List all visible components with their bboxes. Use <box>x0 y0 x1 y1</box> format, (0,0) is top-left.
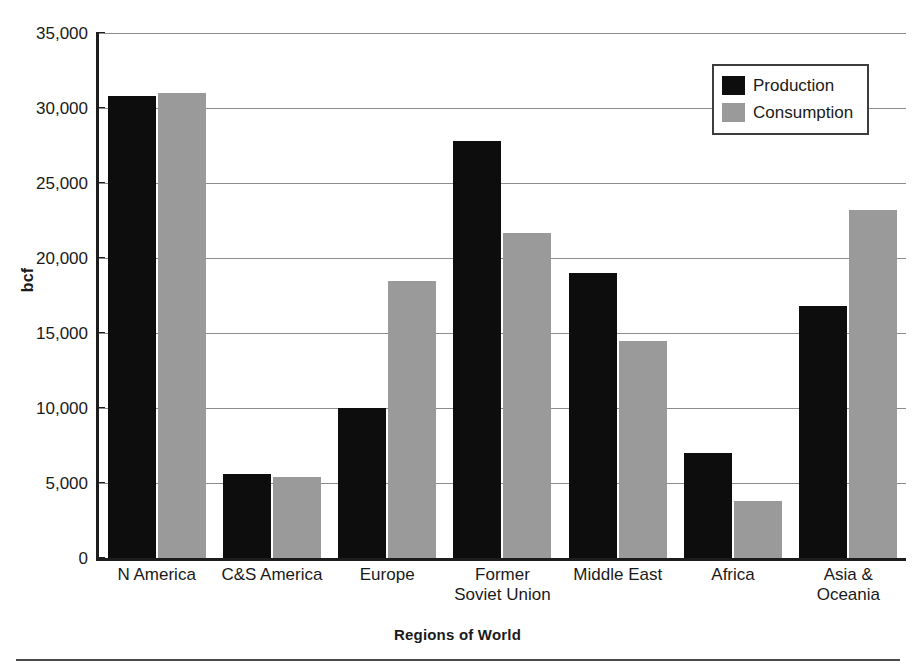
bar-production <box>338 408 386 558</box>
y-axis-tick-label: 30,000 <box>36 100 88 117</box>
bar-consumption <box>388 281 436 559</box>
x-axis-tick-label: Africa <box>675 565 790 585</box>
y-axis-tick-label: 15,000 <box>36 325 88 342</box>
bar-consumption <box>273 477 321 558</box>
bar-production <box>684 453 732 558</box>
bar-consumption <box>503 233 551 559</box>
bar-consumption <box>158 93 206 558</box>
footer-divider <box>16 659 900 661</box>
y-axis-tick-label: 35,000 <box>36 25 88 42</box>
x-axis-tick-label: Middle East <box>560 565 675 585</box>
bar-group <box>330 33 445 558</box>
bar-chart-figure: bcf 05,00010,00015,00020,00025,00030,000… <box>0 0 915 670</box>
legend-label-production: Production <box>753 77 834 94</box>
bar-consumption <box>734 501 782 558</box>
bar-group <box>560 33 675 558</box>
chart-legend: Production Consumption <box>712 64 869 135</box>
x-axis-tick-label: Asia & Oceania <box>791 565 906 604</box>
legend-swatch-production-icon <box>722 76 745 95</box>
bar-consumption <box>619 341 667 559</box>
y-axis-tick-labels: 05,00010,00015,00020,00025,00030,00035,0… <box>30 0 88 570</box>
bar-production <box>223 474 271 558</box>
y-axis-tick-label: 25,000 <box>36 175 88 192</box>
x-axis-tick-label: Europe <box>330 565 445 585</box>
x-axis-tick-label: Former Soviet Union <box>445 565 560 604</box>
y-axis-tick-label: 0 <box>79 550 88 567</box>
bar-group <box>214 33 329 558</box>
legend-label-consumption: Consumption <box>753 104 853 121</box>
y-axis-tick-label: 20,000 <box>36 250 88 267</box>
legend-item-consumption: Consumption <box>722 99 859 126</box>
bar-group <box>445 33 560 558</box>
y-axis-tick-label: 5,000 <box>45 475 88 492</box>
bar-production <box>453 141 501 558</box>
x-axis-tick-label: N America <box>99 565 214 585</box>
legend-swatch-consumption-icon <box>722 103 745 122</box>
x-axis-title: Regions of World <box>0 626 915 643</box>
x-axis-tick-labels: N AmericaC&S AmericaEuropeFormer Soviet … <box>99 565 906 604</box>
bar-production <box>799 306 847 558</box>
y-axis-tick-label: 10,000 <box>36 400 88 417</box>
x-axis-tick-label: C&S America <box>214 565 329 585</box>
bar-production <box>108 96 156 558</box>
bar-group <box>99 33 214 558</box>
bar-consumption <box>849 210 897 558</box>
bar-production <box>569 273 617 558</box>
legend-item-production: Production <box>722 72 859 99</box>
